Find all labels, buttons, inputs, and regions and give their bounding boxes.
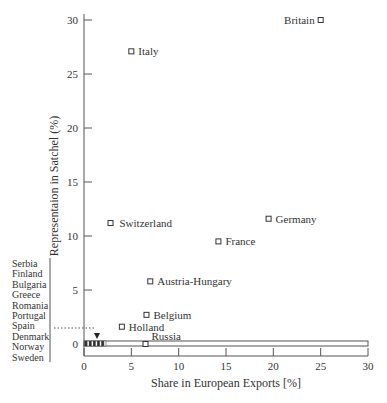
x-ticks: 051015202530 xyxy=(81,348,374,372)
point-label: Germany xyxy=(276,213,317,225)
cluster-country-label: Serbia xyxy=(12,258,38,269)
point-label: Italy xyxy=(138,45,159,57)
point-label: Russia xyxy=(152,330,181,342)
y-tick-label: 15 xyxy=(67,176,79,188)
point-marker xyxy=(119,324,124,329)
point-label: Britain xyxy=(284,14,315,26)
point-label: France xyxy=(225,235,255,247)
x-tick-label: 20 xyxy=(268,360,280,372)
x-tick-label: 25 xyxy=(315,360,327,372)
cluster-country-label: Sweden xyxy=(12,352,44,363)
y-tick-label: 0 xyxy=(73,338,79,350)
x-tick-label: 10 xyxy=(173,360,185,372)
y-tick-label: 30 xyxy=(67,14,79,26)
y-axis-label: Representaion in Satchel (%) xyxy=(47,116,61,256)
cluster-country-label: Portugal xyxy=(12,310,46,321)
point-label: Switzerland xyxy=(120,217,173,229)
point-label: Austria-Hungary xyxy=(157,275,232,287)
point-marker xyxy=(216,239,221,244)
cluster-country-label: Norway xyxy=(12,341,44,352)
cluster-country-list: SerbiaFinlandBulgariaGreeceRomaniaPortug… xyxy=(12,258,49,363)
point-marker xyxy=(318,18,323,23)
data-points: BritainItalySwitzerlandGermanyFranceAust… xyxy=(108,14,323,347)
y-tick-label: 20 xyxy=(67,122,79,134)
point-marker xyxy=(148,279,153,284)
point-marker xyxy=(266,216,271,221)
x-tick-label: 5 xyxy=(129,360,135,372)
cluster-country-label: Bulgaria xyxy=(12,279,47,290)
zero-band xyxy=(84,341,368,346)
cluster-country-label: Greece xyxy=(12,289,41,300)
point-marker xyxy=(143,342,148,347)
point-marker xyxy=(144,312,149,317)
cluster-country-label: Spain xyxy=(12,320,35,331)
y-ticks: 051015202530 xyxy=(67,14,92,350)
x-axis-label: Share in European Exports [%] xyxy=(151,376,301,390)
point-marker xyxy=(108,221,113,226)
point-label: Belgium xyxy=(153,309,191,321)
cluster-country-label: Romania xyxy=(12,300,49,311)
cluster-country-label: Denmark xyxy=(12,331,49,342)
x-tick-label: 15 xyxy=(221,360,233,372)
spain-arrow-icon xyxy=(94,333,100,339)
cluster-country-label: Finland xyxy=(12,268,43,279)
scatter-chart: 051015202530 051015202530 Share in Europ… xyxy=(0,0,387,403)
x-tick-label: 0 xyxy=(81,360,87,372)
x-tick-label: 30 xyxy=(363,360,375,372)
y-tick-label: 5 xyxy=(73,284,79,296)
y-tick-label: 10 xyxy=(67,230,79,242)
cluster-markers xyxy=(85,341,106,346)
point-marker xyxy=(129,49,134,54)
y-tick-label: 25 xyxy=(67,68,79,80)
